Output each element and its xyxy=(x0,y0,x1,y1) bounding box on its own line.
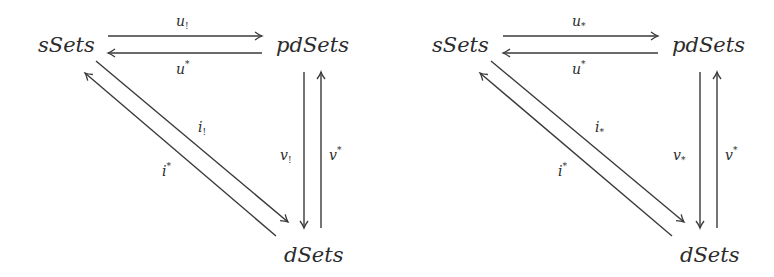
label-i-up: i* xyxy=(558,161,567,179)
label-u-forward: u* xyxy=(572,13,586,31)
adjunction-diagrams: sSets pdSets dSets u! u* i! i* v! v* sSe… xyxy=(0,0,774,277)
arrow-i-up xyxy=(480,73,672,236)
label-v-down: v* xyxy=(673,147,686,165)
label-i-up: i* xyxy=(162,161,171,179)
label-v-down: v! xyxy=(280,147,292,165)
node-pdsets: pdSets xyxy=(672,33,745,57)
label-i-down: i! xyxy=(198,119,206,137)
label-i-down: i* xyxy=(595,119,604,137)
node-ssets: sSets xyxy=(432,33,489,57)
node-dsets: dSets xyxy=(284,243,344,267)
label-v-up: v* xyxy=(329,145,342,163)
arrow-i-down xyxy=(491,61,684,222)
node-dsets: dSets xyxy=(680,243,740,267)
label-u-forward: u! xyxy=(176,13,189,31)
diagram-left: sSets pdSets dSets u! u* i! i* v! v* xyxy=(38,13,349,267)
node-ssets: sSets xyxy=(38,33,95,57)
label-v-up: v* xyxy=(725,145,738,163)
arrow-i-down xyxy=(96,61,288,222)
label-u-back: u* xyxy=(572,59,586,77)
diagram-right: sSets pdSets dSets u* u* i* i* v* v* xyxy=(432,13,745,267)
label-u-back: u* xyxy=(176,59,190,77)
arrow-i-up xyxy=(85,73,276,236)
node-pdsets: pdSets xyxy=(276,33,349,57)
